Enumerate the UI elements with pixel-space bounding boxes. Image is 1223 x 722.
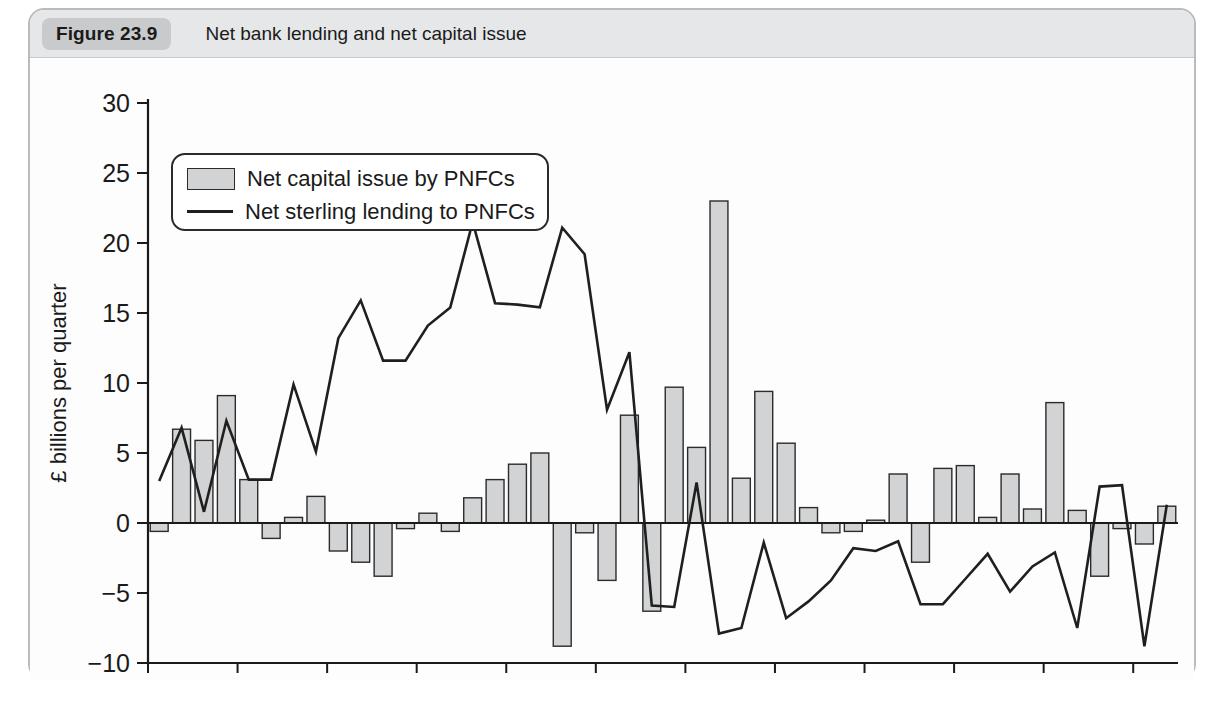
legend-line-swatch-icon (187, 210, 233, 213)
bar (777, 443, 795, 523)
x-axis-ticks: 2003200420052006200720082009201020112012… (148, 663, 1194, 679)
chart-legend: Net capital issue by PNFCs Net sterling … (171, 153, 549, 231)
bar (1135, 523, 1153, 544)
svg-text:2010: 2010 (783, 678, 839, 679)
svg-text:−5: −5 (101, 579, 130, 607)
legend-item-bar: Net capital issue by PNFCs (187, 162, 547, 195)
svg-text:−10: −10 (88, 649, 130, 677)
legend-label-capital-issue: Net capital issue by PNFCs (247, 166, 515, 192)
svg-text:5: 5 (116, 439, 130, 467)
legend-label-sterling-lending: Net sterling lending to PNFCs (245, 199, 535, 225)
svg-text:20: 20 (102, 229, 130, 257)
bar (307, 496, 325, 523)
svg-text:25: 25 (102, 159, 130, 187)
bar (1024, 509, 1042, 523)
bar (217, 396, 235, 523)
svg-text:2008: 2008 (604, 678, 660, 679)
bar (374, 523, 392, 576)
bar (329, 523, 347, 551)
svg-text:2012: 2012 (962, 678, 1018, 679)
figure-title: Net bank lending and net capital issue (205, 23, 526, 45)
svg-text:10: 10 (102, 369, 130, 397)
bar (755, 391, 773, 523)
bar (934, 468, 952, 523)
bar (352, 523, 370, 562)
bar (1068, 510, 1086, 523)
bar (800, 508, 818, 523)
svg-text:2003: 2003 (156, 678, 212, 679)
bar (889, 474, 907, 523)
svg-text:0: 0 (116, 509, 130, 537)
svg-text:2009: 2009 (693, 678, 749, 679)
bar (464, 498, 482, 523)
figure-header: Figure 23.9 Net bank lending and net cap… (30, 10, 1194, 58)
bar (486, 480, 504, 523)
svg-text:30: 30 (102, 89, 130, 117)
bar (576, 523, 594, 533)
bar (240, 480, 258, 523)
bar (956, 466, 974, 523)
svg-text:15: 15 (102, 299, 130, 327)
bar (509, 464, 527, 523)
bar (531, 453, 549, 523)
svg-text:2007: 2007 (514, 678, 570, 679)
svg-text:2005: 2005 (335, 678, 391, 679)
figure-number-badge: Figure 23.9 (42, 18, 171, 50)
bar (598, 523, 616, 580)
bar (732, 478, 750, 523)
chart-plot-area: 302520151050−5−10 2003200420052006200720… (30, 59, 1194, 681)
y-axis-title: £ billions per quarter (46, 283, 71, 482)
bar (1046, 403, 1064, 523)
bar (419, 513, 437, 523)
bar (553, 523, 571, 646)
svg-text:2011: 2011 (873, 678, 927, 679)
bar (710, 201, 728, 523)
line-series-net-sterling-lending (159, 222, 1167, 646)
y-axis-ticks: 302520151050−5−10 (88, 89, 148, 677)
bar (912, 523, 930, 562)
chart-canvas: 302520151050−5−10 2003200420052006200720… (30, 59, 1194, 679)
bar (665, 387, 683, 523)
bar (822, 523, 840, 533)
svg-text:2013: 2013 (1052, 678, 1108, 679)
bar (262, 523, 280, 538)
svg-text:2006: 2006 (425, 678, 481, 679)
bar (441, 523, 459, 531)
svg-text:2014: 2014 (1141, 678, 1194, 679)
svg-text:2004: 2004 (246, 678, 302, 679)
figure-card: Figure 23.9 Net bank lending and net cap… (28, 8, 1196, 680)
legend-bar-swatch-icon (187, 168, 235, 190)
bar (150, 523, 168, 531)
bar (1001, 474, 1019, 523)
bar (844, 523, 862, 531)
legend-item-line: Net sterling lending to PNFCs (187, 195, 547, 228)
